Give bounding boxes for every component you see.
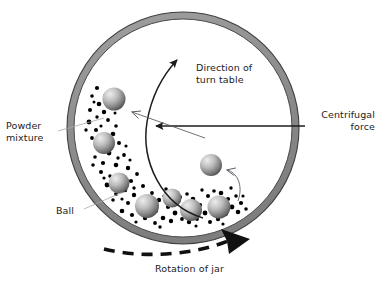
ball-sphere <box>135 194 159 218</box>
label-centrifugal-force: Centrifugal force <box>307 109 375 133</box>
diagram-canvas <box>0 0 379 286</box>
ball-sphere <box>93 132 115 154</box>
ball-sphere <box>163 189 182 208</box>
label-direction-of-turn-table: Direction of turn table <box>196 62 252 86</box>
airborne-ball-pointer-arrow <box>227 170 240 201</box>
ball-sphere <box>208 196 231 219</box>
ball-sphere-airborne <box>200 154 222 176</box>
ball-sphere <box>180 199 202 221</box>
label-ball: Ball <box>56 205 74 217</box>
label-powder-mixture: Powder mixture <box>6 120 44 144</box>
ball-mill-diagram: Direction of turn table Centrifugal forc… <box>0 0 379 286</box>
label-rotation-of-jar: Rotation of jar <box>0 263 379 275</box>
ball-sphere <box>109 173 130 194</box>
ball-sphere <box>103 88 126 111</box>
rising-ball-pointer-arrow <box>132 112 205 138</box>
